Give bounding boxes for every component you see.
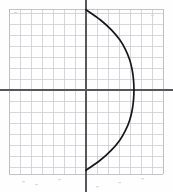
graph-canvas <box>0 0 173 192</box>
graph-figure <box>0 0 173 192</box>
